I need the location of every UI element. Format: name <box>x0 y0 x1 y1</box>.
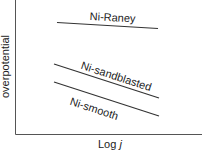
x-axis-label-variable: j <box>119 138 121 150</box>
y-axis-label: overpotential <box>0 35 11 98</box>
line-ni-raney <box>57 23 158 29</box>
x-axis-label-text: Log <box>98 138 119 150</box>
x-axis-label: Log j <box>98 139 122 150</box>
tafel-chart: Ni-Raney Ni-sandblasted Ni-smooth overpo… <box>0 0 206 155</box>
label-ni-raney: Ni-Raney <box>89 11 135 24</box>
